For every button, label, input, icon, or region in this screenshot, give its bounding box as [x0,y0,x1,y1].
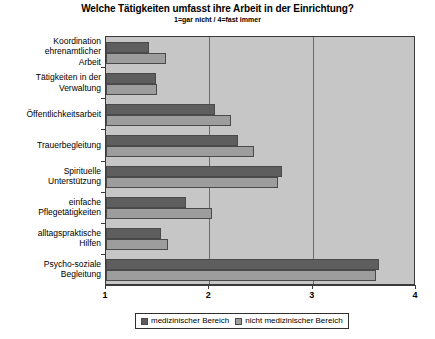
category-label-line: Pflegetätigkeiten [0,207,101,218]
category-label: Trauerbegleitung [0,140,101,151]
bar-1-7 [106,270,376,281]
category-tick [101,192,105,193]
value-tick-label: 3 [302,290,322,300]
bar-0-0 [106,42,149,53]
category-label-line: Spirituelle [0,166,101,177]
bar-0-7 [106,259,379,270]
value-tick [105,285,106,289]
legend-entry-medizinischer-bereich: medizinischer Bereich [141,316,229,326]
legend-entry-nicht-medizinischer-bereich: nicht medizinischer Bereich [235,316,342,326]
category-label: einfachePflegetätigkeiten [0,197,101,218]
category-label: alltagspraktischeHilfen [0,228,101,249]
chart-title: Welche Tätigkeiten umfasst ihre Arbeit i… [0,3,435,15]
category-label-line: Begleitung [0,269,101,280]
category-label-line: Arbeit [0,57,101,68]
bar-chart: Welche Tätigkeiten umfasst ihre Arbeit i… [0,0,435,339]
value-tick-label: 2 [198,290,218,300]
category-label-line: Trauerbegleitung [0,140,101,151]
category-label: Psycho-sozialeBegleitung [0,259,101,280]
bar-0-6 [106,228,161,239]
bar-0-2 [106,104,215,115]
value-axis-line [105,285,416,286]
bar-0-4 [106,166,282,177]
category-label-line: Öffentlichkeitsarbeit [0,109,101,120]
legend-label: medizinischer Bereich [151,316,229,326]
category-label-line: Koordination [0,36,101,47]
category-label: Öffentlichkeitsarbeit [0,109,101,120]
legend-swatch-icon [235,318,242,325]
category-label-line: Unterstützung [0,176,101,187]
value-tick-label: 1 [95,290,115,300]
category-tick [101,129,105,130]
bar-1-0 [106,53,166,64]
bar-1-4 [106,177,278,188]
value-tick [208,285,209,289]
legend-swatch-icon [141,318,148,325]
plot-area [105,36,415,285]
bar-0-1 [106,73,156,84]
value-tick [415,285,416,289]
bar-1-1 [106,84,157,95]
category-label-line: ehrenamtlicher [0,46,101,57]
gridline [313,37,314,284]
category-label-line: Verwaltung [0,83,101,94]
bar-1-6 [106,239,168,250]
category-tick [101,223,105,224]
category-label-line: Psycho-soziale [0,259,101,270]
category-tick [101,98,105,99]
value-tick [312,285,313,289]
value-tick-label: 4 [405,290,425,300]
category-label-line: einfache [0,197,101,208]
category-tick [101,67,105,68]
category-label: Tätigkeiten in derVerwaltung [0,72,101,93]
chart-legend: medizinischer Bereich nicht medizinische… [135,313,349,329]
chart-subtitle: 1=gar nicht / 4=fast immer [0,15,435,24]
bar-1-5 [106,208,212,219]
category-label-line: alltagspraktische [0,228,101,239]
category-label-line: Tätigkeiten in der [0,72,101,83]
bar-0-5 [106,197,186,208]
gridline [209,37,210,284]
bar-1-3 [106,146,254,157]
category-tick [101,254,105,255]
legend-label: nicht medizinischer Bereich [245,316,342,326]
category-label-line: Hilfen [0,238,101,249]
bar-0-3 [106,135,238,146]
bar-1-2 [106,115,231,126]
category-label: KoordinationehrenamtlicherArbeit [0,36,101,68]
category-tick [101,161,105,162]
category-label: SpirituelleUnterstützung [0,166,101,187]
